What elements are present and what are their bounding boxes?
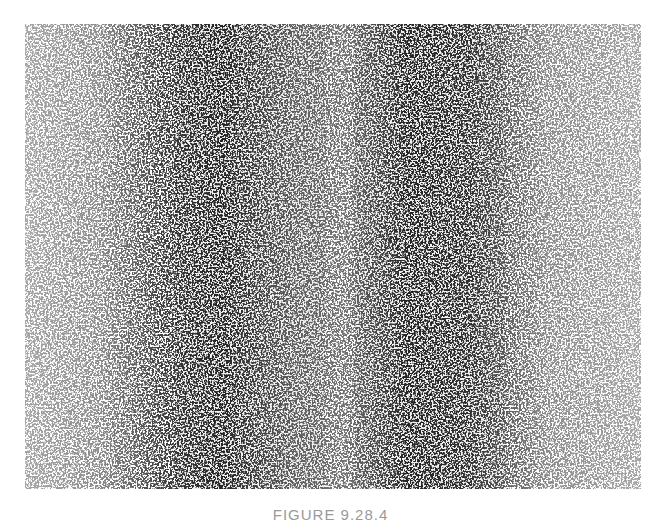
grain-layer — [25, 24, 641, 489]
scan-graphic — [25, 24, 641, 489]
figure-caption: FIGURE 9.28.4 — [0, 506, 661, 523]
noise-scan-image — [25, 24, 641, 489]
right-band — [355, 24, 505, 489]
left-band — [175, 24, 325, 489]
